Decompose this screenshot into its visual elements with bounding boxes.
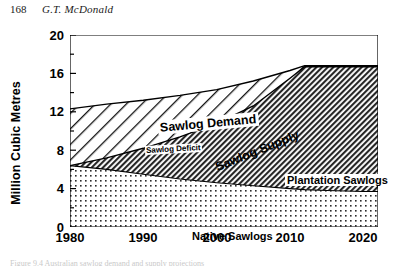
x-tick-2010: 2010 xyxy=(267,230,313,245)
y-tick-4: 4 xyxy=(30,182,64,195)
x-tick-1980: 1980 xyxy=(47,230,93,245)
figure-caption: Figure 9.4 Australian sawlog demand and … xyxy=(10,259,383,266)
x-tick-1990: 1990 xyxy=(120,230,166,245)
chart-figure: Million Cubic Metres 20 16 12 8 4 0 xyxy=(0,18,393,266)
running-head: G.T. McDonald xyxy=(42,3,113,15)
y-axis-title: Million Cubic Metres xyxy=(9,43,23,243)
page-number: 168 xyxy=(10,3,27,15)
x-tick-2020: 2020 xyxy=(340,230,386,245)
figure-page: 168 G.T. McDonald Million Cubic Metres 2… xyxy=(0,0,393,266)
y-tick-16: 16 xyxy=(30,67,64,80)
plot-area: Sawlog Demand Sawlog Deficit Sawlog Supp… xyxy=(70,35,378,227)
y-tick-20: 20 xyxy=(30,29,64,42)
y-tick-8: 8 xyxy=(30,144,64,157)
chart-svg xyxy=(70,35,378,227)
y-axis-ticks: 20 16 12 8 4 0 xyxy=(26,35,64,227)
y-tick-12: 12 xyxy=(30,105,64,118)
x-tick-2000: 2000 xyxy=(194,230,240,245)
x-axis-ticks: 1980 1990 2000 2010 2020 xyxy=(70,230,378,250)
label-plantation-sawlogs: Plantation Sawlogs xyxy=(285,174,390,186)
